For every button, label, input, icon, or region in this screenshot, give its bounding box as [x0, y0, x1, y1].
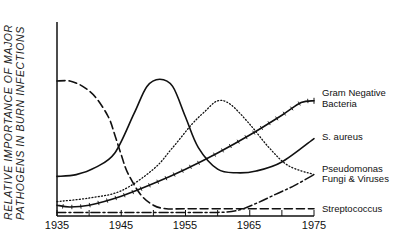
gram-negative-tick-mark	[98, 201, 99, 205]
gram-negative-tick-mark	[115, 196, 116, 200]
legend-gram-negative: Gram Negative Bacteria	[322, 87, 386, 109]
x-tick-1945: 1945	[109, 219, 133, 231]
x-tick-1935: 1935	[45, 219, 69, 231]
legend-s-aureus: S. aureus	[322, 131, 363, 142]
y-axis-label: RELATIVE IMPORTANCE OF MAJOR PATHOGENS I…	[2, 0, 42, 230]
series-line-fungi-viruses	[57, 175, 314, 213]
legend-gram-negative-line-1: Gram Negative	[322, 87, 386, 98]
y-axis-label-line-1: RELATIVE IMPORTANCE OF MAJOR	[2, 0, 14, 220]
pathogen-importance-chart: RELATIVE IMPORTANCE OF MAJOR PATHOGENS I…	[0, 0, 402, 240]
x-tick-1965: 1965	[237, 219, 261, 231]
x-tick-1975: 1975	[302, 219, 326, 231]
legend-streptococcus: Streptococcus	[322, 203, 382, 214]
x-tick-1955: 1955	[173, 219, 197, 231]
gram-negative-tick-mark	[89, 203, 90, 207]
legend-gram-negative-line-2: Bacteria	[322, 98, 386, 109]
legend-fungi-viruses: Fungi & Viruses	[322, 173, 389, 184]
series-line-streptococcus	[57, 81, 314, 209]
gram-negative-tick-mark	[63, 204, 64, 208]
series-line-s-aureus	[57, 79, 314, 176]
gram-negative-tick-mark	[107, 198, 108, 202]
y-axis-label-line-2: PATHOGENS IN BURN INFECTIONS	[14, 0, 26, 220]
